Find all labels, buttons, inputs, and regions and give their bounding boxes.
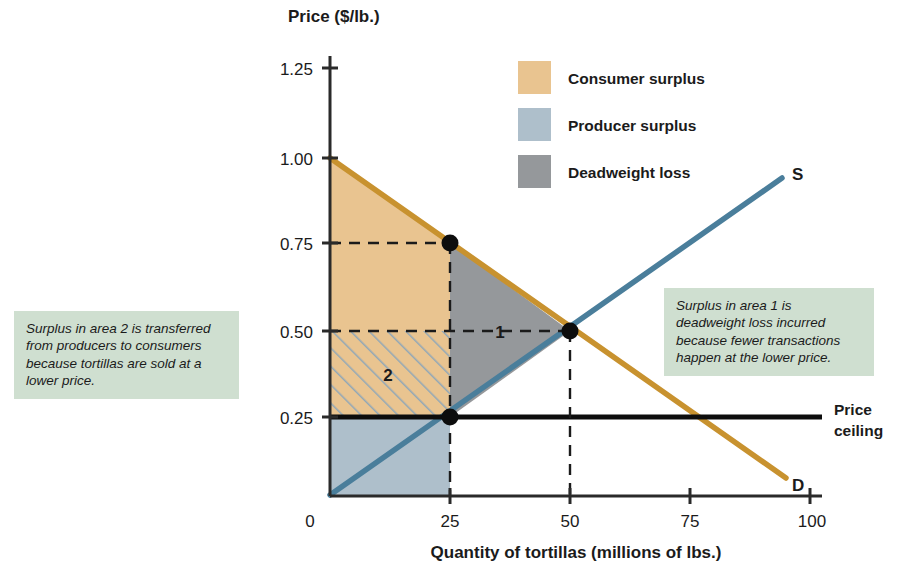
callout-area-two: Surplus in area 2 is transferred from pr…: [14, 311, 239, 399]
point-ceiling-at-q25: [442, 409, 459, 426]
area-two-label: 2: [383, 366, 392, 385]
y-tick-label-125: 1.25: [280, 60, 313, 79]
price-ceiling-label-line2: ceiling: [834, 422, 883, 439]
supply-curve-label: S: [792, 165, 803, 184]
legend-item-producer-surplus[interactable]: Producer surplus: [518, 108, 696, 141]
price-ceiling-label-line1: Price: [834, 401, 872, 418]
legend-item-consumer-surplus[interactable]: Consumer surplus: [518, 61, 705, 94]
x-tick-label-75: 75: [681, 512, 700, 531]
point-demand-at-q25: [442, 235, 459, 252]
y-tick-label-025: 0.25: [280, 409, 313, 428]
x-tick-label-0: 0: [305, 512, 314, 531]
y-tick-label-075: 0.75: [280, 235, 313, 254]
supply-demand-figure: Price ($/lb.) Quantity of tortillas (mil…: [0, 0, 920, 574]
point-equilibrium: [562, 323, 579, 340]
x-tick-label-50: 50: [561, 512, 580, 531]
legend-label-producer-surplus: Producer surplus: [568, 117, 696, 134]
x-tick-label-25: 25: [441, 512, 460, 531]
legend-label-deadweight-loss: Deadweight loss: [568, 164, 690, 181]
legend-swatch-deadweight-loss: [518, 155, 551, 188]
y-axis-title: Price ($/lb.): [288, 7, 380, 26]
chart-canvas: Price ($/lb.) Quantity of tortillas (mil…: [0, 0, 920, 574]
legend: Consumer surplus Producer surplus Deadwe…: [518, 61, 705, 188]
y-tick-label-100: 1.00: [280, 150, 313, 169]
demand-curve-label: D: [792, 476, 804, 495]
legend-item-deadweight-loss[interactable]: Deadweight loss: [518, 155, 690, 188]
y-tick-label-050: 0.50: [280, 323, 313, 342]
legend-swatch-consumer-surplus: [518, 61, 551, 94]
legend-swatch-producer-surplus: [518, 108, 551, 141]
legend-label-consumer-surplus: Consumer surplus: [568, 70, 705, 87]
area-one-label: 1: [495, 323, 504, 342]
x-axis-title: Quantity of tortillas (millions of lbs.): [431, 543, 722, 562]
x-tick-label-100: 100: [798, 512, 826, 531]
callout-area-one: Surplus in area 1 is deadweight loss inc…: [664, 288, 874, 376]
